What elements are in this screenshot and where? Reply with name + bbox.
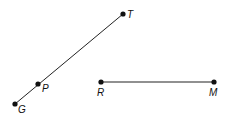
point-p-icon	[35, 81, 40, 86]
point-g-icon	[12, 101, 17, 106]
label-g: G	[18, 104, 26, 115]
label-r: R	[97, 87, 104, 98]
geometry-diagram: T P G R M	[0, 0, 228, 117]
point-m-icon	[211, 79, 216, 84]
label-m: M	[209, 87, 218, 98]
point-t-icon	[120, 11, 125, 16]
diagram-svg: T P G R M	[0, 0, 228, 117]
point-r-icon	[98, 79, 103, 84]
label-t: T	[127, 9, 134, 20]
label-p: P	[42, 83, 49, 94]
segment-gt	[15, 14, 123, 104]
